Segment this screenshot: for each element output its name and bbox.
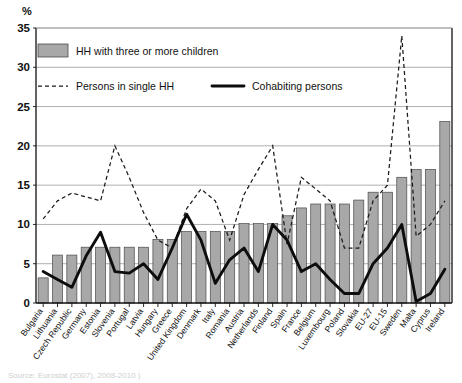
y-axis-tick-label: 20	[17, 140, 30, 152]
chart-svg: 05101520253035 BulgariaLithuaniaCzech Re…	[0, 0, 462, 383]
bar	[296, 208, 306, 303]
bar	[325, 204, 335, 303]
bars-group	[38, 122, 450, 304]
bar	[182, 232, 192, 304]
legend-bar-label: HH with three or more children	[76, 45, 219, 57]
bar	[96, 247, 106, 303]
y-axis-tick-label: 10	[17, 218, 30, 230]
y-axis-tick-label: 15	[17, 179, 30, 191]
bar	[124, 247, 134, 303]
legend-bar-swatch	[38, 44, 68, 57]
x-axis-labels-group: BulgariaLithuaniaCzech RepublicGermanyEs…	[19, 303, 447, 362]
y-axis-tick-label: 35	[17, 22, 30, 34]
legend-dashed-label: Persons in single HH	[76, 80, 174, 92]
y-axis-tick-label: 0	[24, 297, 30, 309]
bar	[311, 204, 321, 303]
bar	[210, 232, 220, 304]
figure-root: % 05101520253035 BulgariaLithuaniaCzech …	[0, 0, 462, 383]
bar	[368, 192, 378, 303]
y-axis-tick-label: 5	[24, 258, 31, 270]
bar	[38, 278, 48, 303]
bar	[139, 247, 149, 303]
bar	[425, 169, 435, 303]
y-axis-ticks-group: 05101520253035	[17, 22, 36, 309]
source-note: Source: Eurostat (2007), 2008-2010 )	[8, 371, 141, 380]
bar	[239, 224, 249, 303]
bar	[110, 247, 120, 303]
y-axis-tick-label: 30	[17, 61, 30, 73]
y-axis-tick-label: 25	[17, 101, 30, 113]
legend-group: HH with three or more childrenPersons in…	[38, 44, 342, 92]
legend-solid-label: Cohabiting persons	[252, 80, 342, 92]
chart-plot-area: 05101520253035 BulgariaLithuaniaCzech Re…	[0, 0, 462, 383]
